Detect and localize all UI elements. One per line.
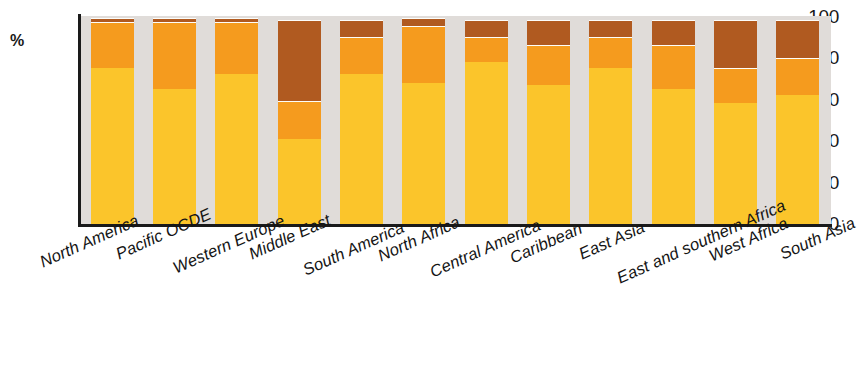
- bar-segment-yellow-segment: [714, 103, 757, 224]
- bar-segment-brown-segment: [215, 18, 258, 22]
- bar-segment-orange-segment: [589, 37, 632, 68]
- bar-central-america: [465, 16, 508, 224]
- bar-segment-yellow-segment: [402, 83, 445, 224]
- bar-segment-brown-segment: [91, 18, 134, 22]
- bar-segment-orange-segment: [91, 22, 134, 68]
- bar-segment-orange-segment: [527, 45, 570, 85]
- bar-segment-brown-segment: [153, 18, 196, 22]
- bar-east-asia: [589, 16, 632, 224]
- bar-south-asia: [776, 16, 819, 224]
- bar-east-and-southern-africa: [652, 16, 695, 224]
- bar-segment-orange-segment: [714, 68, 757, 103]
- bar-segment-orange-segment: [340, 37, 383, 74]
- bar-segment-orange-segment: [776, 58, 819, 95]
- bar-segment-yellow-segment: [589, 68, 632, 224]
- bar-segment-orange-segment: [652, 45, 695, 89]
- bar-segment-yellow-segment: [527, 85, 570, 224]
- bar-pacific-ocde: [153, 16, 196, 224]
- bar-west-africa: [714, 16, 757, 224]
- bar-segment-brown-segment: [402, 18, 445, 26]
- bar-segment-yellow-segment: [465, 62, 508, 224]
- bar-middle-east: [278, 16, 321, 224]
- bar-segment-orange-segment: [402, 26, 445, 82]
- bar-segment-brown-segment: [652, 20, 695, 45]
- bar-segment-yellow-segment: [340, 74, 383, 224]
- bar-north-america: [91, 16, 134, 224]
- bar-segment-orange-segment: [278, 101, 321, 138]
- bar-segment-brown-segment: [776, 20, 819, 57]
- y-axis-line: [78, 14, 81, 226]
- bar-western-europe: [215, 16, 258, 224]
- bar-north-africa: [402, 16, 445, 224]
- bar-caribbean: [527, 16, 570, 224]
- bar-series-layer: [81, 16, 829, 224]
- bar-segment-orange-segment: [153, 22, 196, 89]
- bar-segment-yellow-segment: [215, 74, 258, 224]
- bar-segment-yellow-segment: [652, 89, 695, 224]
- bar-segment-orange-segment: [465, 37, 508, 62]
- bar-segment-brown-segment: [340, 20, 383, 37]
- bar-segment-yellow-segment: [91, 68, 134, 224]
- bar-south-america: [340, 16, 383, 224]
- y-axis-title: %: [10, 32, 24, 50]
- bar-segment-yellow-segment: [278, 139, 321, 224]
- bar-segment-brown-segment: [589, 20, 632, 37]
- x-axis-labels: North AmericaPacific OCDEWestern EuropeM…: [0, 228, 839, 369]
- bar-segment-brown-segment: [527, 20, 570, 45]
- bar-segment-yellow-segment: [153, 89, 196, 224]
- bar-segment-orange-segment: [215, 22, 258, 74]
- bar-segment-brown-segment: [714, 20, 757, 68]
- bar-segment-brown-segment: [278, 20, 321, 101]
- bar-segment-brown-segment: [465, 20, 508, 37]
